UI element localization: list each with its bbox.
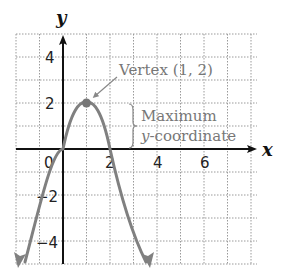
tick-x-6: 6 <box>200 154 210 172</box>
tick-y-m4: −4 <box>36 234 58 252</box>
tick-y-2: 2 <box>45 95 55 113</box>
vertex-point <box>82 99 91 108</box>
tick-y-4: 4 <box>45 49 55 67</box>
vertex-label: Vertex (1, 2) <box>118 61 213 79</box>
max-label-rest: -coordinate <box>149 127 236 145</box>
x-axis-label: x <box>261 139 273 160</box>
y-axis-label: y <box>55 7 68 28</box>
max-label-line1: Maximum <box>141 107 217 125</box>
parabola-chart: x y 0 2 4 6 4 2 −2 −4 Vertex (1, 2) Maxi… <box>0 0 287 278</box>
tick-x-4: 4 <box>153 154 163 172</box>
max-label-line2: y-coordinate <box>140 127 236 145</box>
